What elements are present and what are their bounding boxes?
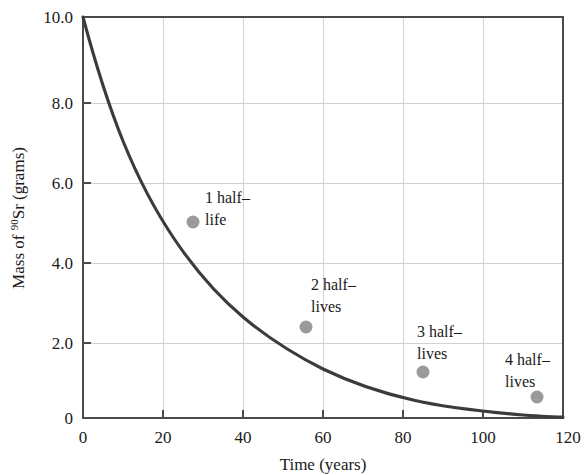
x-tick-label: 20 bbox=[155, 428, 172, 447]
data-marker-3-half-lives bbox=[417, 366, 430, 379]
x-tick-label: 60 bbox=[315, 428, 332, 447]
svg-text:Mass of 90Sr (grams): Mass of 90Sr (grams) bbox=[8, 147, 28, 289]
decay-chart: 10.0 8.0 6.0 4.0 2.0 0 0 20 40 60 80 100… bbox=[0, 0, 587, 475]
y-tick-label: 10.0 bbox=[43, 8, 73, 27]
y-tick-label: 2.0 bbox=[52, 334, 73, 353]
x-tick-label: 100 bbox=[470, 428, 496, 447]
x-tick-label: 0 bbox=[79, 428, 88, 447]
y-axis-title: Mass of 90Sr (grams) bbox=[8, 147, 28, 289]
y-axis-title-suffix: Sr (grams) bbox=[9, 147, 28, 219]
annotation-line-2: lives bbox=[505, 373, 535, 390]
chart-background bbox=[0, 0, 587, 475]
annotation-line-1: 1 half– bbox=[205, 189, 251, 206]
y-tick-label: 6.0 bbox=[52, 174, 73, 193]
x-axis-title: Time (years) bbox=[280, 455, 367, 474]
annotation-line-2: life bbox=[205, 211, 226, 228]
chart-canvas: 10.0 8.0 6.0 4.0 2.0 0 0 20 40 60 80 100… bbox=[0, 0, 587, 475]
y-tick-label: 4.0 bbox=[52, 254, 73, 273]
annotation-line-2: lives bbox=[417, 345, 447, 362]
data-marker-4-half-lives bbox=[531, 391, 544, 404]
y-tick-label: 0 bbox=[65, 409, 74, 428]
x-tick-label: 40 bbox=[235, 428, 252, 447]
y-tick-label: 8.0 bbox=[52, 94, 73, 113]
x-tick-label: 120 bbox=[555, 428, 581, 447]
y-axis-title-superscript: 90 bbox=[8, 219, 20, 231]
y-axis-title-prefix: Mass of bbox=[9, 230, 28, 289]
data-marker-2-half-lives bbox=[300, 321, 313, 334]
annotation-line-2: lives bbox=[311, 298, 341, 315]
annotation-line-1: 2 half– bbox=[311, 276, 357, 293]
x-tick-label: 80 bbox=[395, 428, 412, 447]
annotation-line-1: 4 half– bbox=[505, 351, 551, 368]
data-marker-1-half-life bbox=[187, 216, 200, 229]
annotation-line-1: 3 half– bbox=[417, 323, 463, 340]
